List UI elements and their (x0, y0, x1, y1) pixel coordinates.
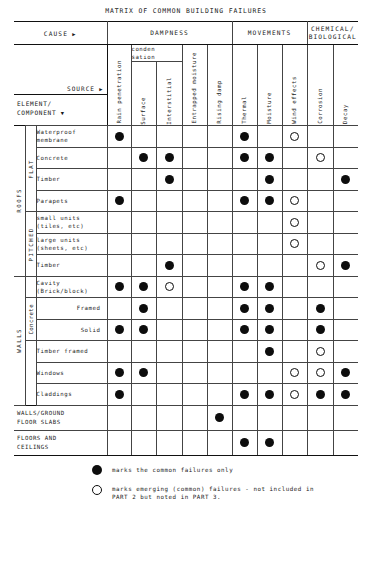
cell-decay (333, 169, 358, 191)
cell-thermal (232, 298, 257, 320)
group-header-dampness: DAMPNESS (107, 22, 232, 45)
cell-entrapped-moisture (182, 430, 207, 455)
cell-decay (333, 430, 358, 455)
cell-corrosion (307, 126, 333, 148)
cell-decay (333, 233, 358, 255)
filled-circle-icon (265, 390, 274, 399)
cell-surface (131, 384, 156, 406)
cell-wind-effects (282, 341, 307, 363)
cell-entrapped-moisture (182, 405, 207, 430)
cell-rising-damp (207, 255, 232, 277)
open-circle-icon (290, 390, 299, 399)
row-label: Timber framed (36, 341, 107, 363)
cell-entrapped-moisture (182, 169, 207, 191)
cell-thermal (232, 276, 257, 298)
cell-moisture (257, 126, 282, 148)
cell-surface (131, 430, 156, 455)
table-row: Windows (14, 362, 358, 384)
cell-rain-penetration (107, 430, 131, 455)
open-circle-icon (92, 484, 112, 495)
table-row: Timber (14, 255, 358, 277)
table-row: FLOORS ANDCEILINGS (14, 430, 358, 455)
cell-thermal (232, 212, 257, 234)
cell-corrosion (307, 212, 333, 234)
col-entrapped-moisture: Entrapped moisture (182, 45, 207, 126)
cell-rain-penetration (107, 319, 131, 341)
cell-interstitial (156, 405, 182, 430)
cell-decay (333, 147, 358, 169)
cell-rain-penetration (107, 384, 131, 406)
condensation-header-row: SOURCE ELEMENT/ COMPONENT ▼ Rain penetra… (14, 45, 358, 62)
cell-corrosion (307, 255, 333, 277)
cell-entrapped-moisture (182, 341, 207, 363)
filled-circle-icon (115, 132, 124, 141)
cell-wind-effects (282, 169, 307, 191)
cell-thermal (232, 384, 257, 406)
cell-wind-effects (282, 362, 307, 384)
open-circle-icon (290, 239, 299, 248)
cell-rain-penetration (107, 362, 131, 384)
cell-rain-penetration (107, 190, 131, 212)
open-circle-icon (290, 368, 299, 377)
cell-entrapped-moisture (182, 212, 207, 234)
filled-circle-icon (265, 325, 274, 334)
filled-circle-icon (316, 304, 325, 313)
cell-entrapped-moisture (182, 298, 207, 320)
filled-circle-icon (165, 153, 174, 162)
cell-rain-penetration (107, 276, 131, 298)
cell-interstitial (156, 169, 182, 191)
cell-decay (333, 126, 358, 148)
cell-rain-penetration (107, 405, 131, 430)
filled-circle-icon (139, 153, 148, 162)
source-label: SOURCE (14, 85, 107, 94)
cell-corrosion (307, 384, 333, 406)
cell-rising-damp (207, 169, 232, 191)
cell-thermal (232, 430, 257, 455)
col-condensation-group: conden sation (131, 45, 182, 62)
row-label: Solid (36, 319, 107, 341)
row-label: Framed (36, 298, 107, 320)
cell-surface (131, 405, 156, 430)
filled-circle-icon (92, 465, 112, 476)
filled-circle-icon (316, 390, 325, 399)
cell-thermal (232, 233, 257, 255)
cell-moisture (257, 341, 282, 363)
filled-circle-icon (165, 175, 174, 184)
cell-surface (131, 233, 156, 255)
cell-decay (333, 384, 358, 406)
cell-surface (131, 126, 156, 148)
subgroup-label-none (25, 276, 36, 298)
cell-rising-damp (207, 319, 232, 341)
cell-decay (333, 341, 358, 363)
cell-wind-effects (282, 319, 307, 341)
cell-rain-penetration (107, 212, 131, 234)
source-element-block: SOURCE ELEMENT/ COMPONENT ▼ (14, 45, 107, 126)
cell-moisture (257, 212, 282, 234)
cell-moisture (257, 405, 282, 430)
row-label: Waterproofmembrane (36, 126, 107, 148)
subgroup-label-flat: FLAT (25, 126, 36, 212)
cell-decay (333, 190, 358, 212)
cell-rain-penetration (107, 298, 131, 320)
cell-interstitial (156, 190, 182, 212)
cell-entrapped-moisture (182, 233, 207, 255)
filled-circle-icon (341, 368, 350, 377)
cell-surface (131, 319, 156, 341)
filled-circle-icon (240, 196, 249, 205)
subgroup-label-none (25, 341, 36, 406)
open-circle-icon (316, 347, 325, 356)
filled-circle-icon (139, 325, 148, 334)
open-circle-icon (316, 153, 325, 162)
cell-rising-damp (207, 362, 232, 384)
cell-thermal (232, 169, 257, 191)
cell-interstitial (156, 298, 182, 320)
cell-interstitial (156, 362, 182, 384)
row-label: Parapets (36, 190, 107, 212)
cell-rain-penetration (107, 126, 131, 148)
cell-corrosion (307, 298, 333, 320)
table-row: Parapets (14, 190, 358, 212)
row-label: small units(tiles, etc) (36, 212, 107, 234)
section-label-walls: WALLS (14, 276, 25, 405)
cell-surface (131, 276, 156, 298)
cell-wind-effects (282, 126, 307, 148)
